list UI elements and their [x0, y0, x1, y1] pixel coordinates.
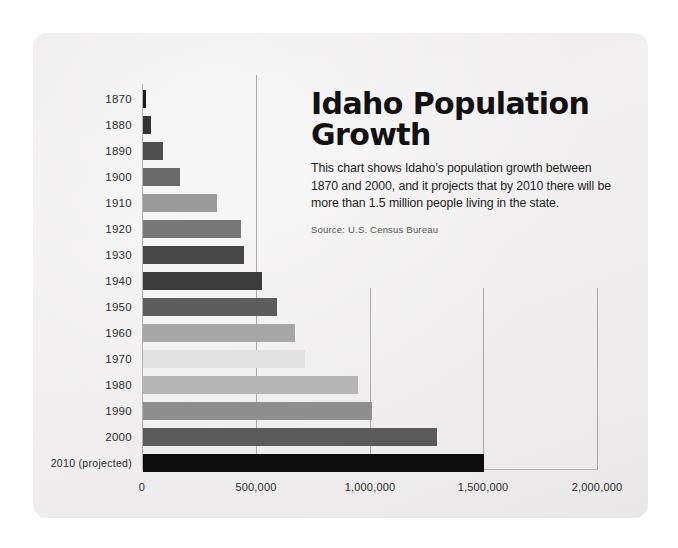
bar-row: 1940 — [0, 268, 678, 294]
category-label: 1920 — [14, 216, 142, 242]
category-label: 2000 — [14, 424, 142, 450]
bar-row: 2010 (projected) — [0, 450, 678, 476]
category-label: 1890 — [14, 138, 142, 164]
x-tick-label: 1,500,000 — [458, 481, 509, 493]
bar — [143, 324, 295, 342]
category-label: 1870 — [14, 86, 142, 112]
category-label: 1880 — [14, 112, 142, 138]
category-label: 1980 — [14, 372, 142, 398]
x-tick-label: 2,000,000 — [572, 481, 623, 493]
bar-row: 1950 — [0, 294, 678, 320]
category-label: 1970 — [14, 346, 142, 372]
bar — [143, 376, 358, 394]
bar — [143, 428, 437, 446]
bar — [143, 90, 146, 108]
chart-text-block: Idaho Population Growth This chart shows… — [311, 88, 611, 235]
chart-title-line-1: Idaho Population — [311, 86, 589, 121]
bar-row: 1970 — [0, 346, 678, 372]
bar — [143, 194, 217, 212]
bar — [143, 454, 484, 472]
bar-row: 1990 — [0, 398, 678, 424]
chart-source: Source: U.S. Census Bureau — [311, 224, 611, 235]
chart-title-line-2: Growth — [311, 117, 431, 152]
chart-description: This chart shows Idaho’s population grow… — [311, 160, 611, 213]
bar — [143, 116, 151, 134]
x-tick-label: 0 — [139, 481, 145, 493]
chart-title: Idaho Population Growth — [311, 88, 611, 150]
chart-plot-area: 1870188018901900191019201930194019501960… — [0, 0, 678, 548]
category-label: 1960 — [14, 320, 142, 346]
bar — [143, 246, 244, 264]
bar — [143, 220, 241, 238]
category-label: 1940 — [14, 268, 142, 294]
bar-row: 2000 — [0, 424, 678, 450]
bar — [143, 350, 305, 368]
x-tick-label: 500,000 — [235, 481, 276, 493]
category-label: 1910 — [14, 190, 142, 216]
bar-row: 1930 — [0, 242, 678, 268]
category-label: 1990 — [14, 398, 142, 424]
bar — [143, 142, 163, 160]
category-label: 1950 — [14, 294, 142, 320]
bar-row: 1980 — [0, 372, 678, 398]
bar — [143, 272, 262, 290]
category-label: 1930 — [14, 242, 142, 268]
bar — [143, 168, 180, 186]
x-tick-label: 1,000,000 — [345, 481, 396, 493]
bar — [143, 298, 277, 316]
bar-row: 1960 — [0, 320, 678, 346]
page-root: 1870188018901900191019201930194019501960… — [0, 0, 678, 548]
bar — [143, 402, 372, 420]
category-label: 2010 (projected) — [14, 450, 142, 476]
category-label: 1900 — [14, 164, 142, 190]
